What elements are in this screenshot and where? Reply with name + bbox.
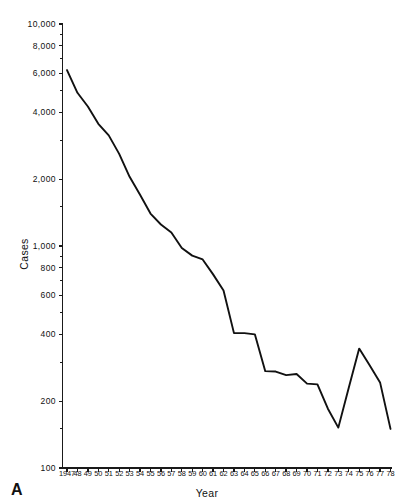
x-tick-label: 75 [355,470,363,477]
y-axis-ticks [59,24,63,468]
y-tick-label: 400 [41,330,56,339]
x-tick-label: 74 [345,470,353,477]
x-tick-label: 76 [366,470,374,477]
x-tick-label: 60 [199,470,207,477]
y-tick-label: 8,000 [33,41,56,50]
x-tick-label: 70 [303,470,311,477]
x-tick-label: 49 [84,470,92,477]
x-tick-label: 62 [220,470,228,477]
y-tick-label: 600 [41,291,56,300]
x-axis-title: Year [0,487,414,499]
panel-letter: A [11,481,23,499]
y-tick-label: 800 [41,263,56,272]
x-tick-label: 64 [240,470,248,477]
x-tick-label: 50 [94,470,102,477]
x-tick-label: 61 [209,470,217,477]
x-tick-label: 58 [178,470,186,477]
x-tick-label: 55 [146,470,154,477]
x-tick-label: 53 [126,470,134,477]
y-tick-label: 6,000 [33,69,56,78]
x-tick-label: 71 [313,470,321,477]
x-tick-label: 66 [261,470,269,477]
axes-group [63,24,393,468]
chart-plot-area [0,0,414,504]
x-tick-label: 63 [230,470,238,477]
y-tick-label: 4,000 [33,108,56,117]
x-tick-label: 78 [386,470,394,477]
x-tick-label: 51 [105,470,113,477]
y-axis-title: Cases [18,224,30,284]
x-tick-label: 57 [167,470,175,477]
x-tick-label: 56 [157,470,165,477]
x-tick-label: 68 [282,470,290,477]
x-tick-label: 77 [376,470,384,477]
x-tick-label: 72 [324,470,332,477]
x-tick-label: 69 [293,470,301,477]
x-tick-label: 52 [115,470,123,477]
cases-line-series [67,70,391,429]
x-tick-label: 73 [334,470,342,477]
x-tick-label: 59 [188,470,196,477]
x-tick-label: 65 [251,470,259,477]
x-axis-tick-labels: 1947484950515253545556575859606162636465… [0,470,414,484]
chart-figure: 10,0008,0006,0004,0002,0001,000800600400… [0,0,414,504]
y-tick-label: 10,000 [28,20,56,29]
y-tick-label: 1,000 [33,242,56,251]
y-tick-label: 2,000 [33,175,56,184]
x-tick-label: 54 [136,470,144,477]
x-tick-label: 48 [73,470,81,477]
y-tick-label: 200 [41,397,56,406]
x-tick-label: 67 [272,470,280,477]
